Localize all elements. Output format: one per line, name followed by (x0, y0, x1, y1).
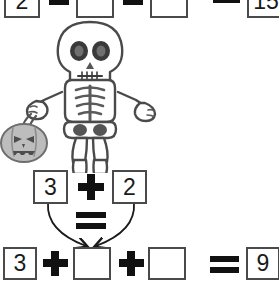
bottom-plus-2-icon (118, 247, 146, 280)
bottom-term-3-box[interactable] (148, 247, 186, 280)
skeleton-skull (58, 22, 123, 85)
bottom-term-1-value: 3 (14, 252, 27, 275)
middle-equals-icon (76, 210, 106, 234)
skeleton-legs (72, 138, 107, 173)
top-result-value: 15 (253, 0, 279, 13)
top-plus-2-icon (122, 0, 144, 18)
middle-term-1-box[interactable]: 3 (33, 170, 68, 204)
skeleton-ribcage (65, 80, 115, 122)
middle-term-2-value: 2 (123, 176, 136, 199)
top-result-box[interactable]: 15 (247, 0, 279, 18)
top-plus-1-icon (48, 0, 70, 18)
bottom-result-value: 9 (257, 252, 270, 275)
jack-o-lantern-bucket (1, 124, 47, 162)
top-term-3-box[interactable] (150, 0, 188, 18)
top-equals-icon (213, 0, 241, 18)
middle-term-1-value: 3 (44, 176, 57, 199)
skeleton-pelvis (64, 122, 116, 138)
worksheet-canvas: 2 15 .bone { fill:#ffffff; stroke:#4a4a4… (0, 0, 279, 282)
bottom-plus-1-icon (42, 247, 70, 280)
bottom-term-1-box[interactable]: 3 (3, 247, 37, 280)
flow-arrows (0, 198, 279, 254)
skeleton-figure: .bone { fill:#ffffff; stroke:#4a4a4a; st… (0, 18, 185, 173)
top-term-1-value: 2 (16, 0, 29, 13)
bottom-result-box[interactable]: 9 (246, 247, 279, 280)
top-term-2-box[interactable] (76, 0, 114, 18)
skeleton-right-arm (118, 92, 155, 121)
bottom-equals-icon (210, 247, 240, 280)
bottom-term-2-box[interactable] (73, 247, 111, 280)
skeleton-left-arm (27, 92, 62, 119)
top-term-1-box[interactable]: 2 (4, 0, 40, 18)
middle-plus-icon (76, 170, 106, 204)
middle-term-2-box[interactable]: 2 (112, 170, 147, 204)
